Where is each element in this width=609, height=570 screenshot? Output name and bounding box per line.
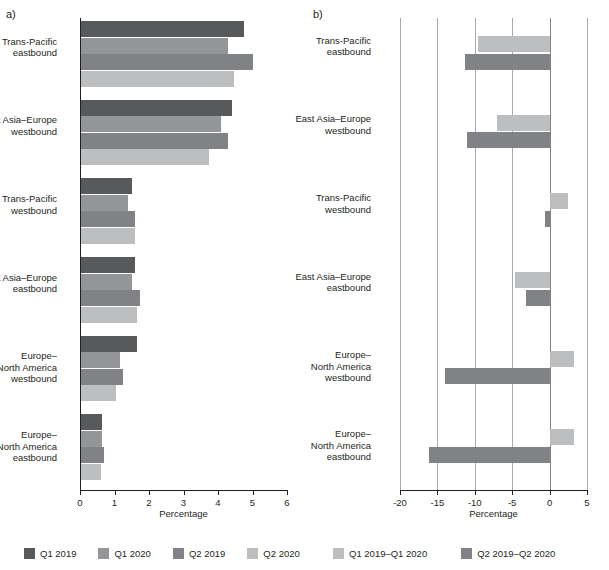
panel-a-category-label: East Asia–Europe westbound [0, 114, 57, 137]
legend-item: Q2 2019–Q2 2020 [461, 548, 555, 559]
panel-b-bar [465, 54, 550, 70]
legend-item: Q2 2020 [247, 548, 299, 559]
panel-a-bar [80, 369, 123, 385]
panel-b-category-label: Trans-Pacific eastbound [241, 35, 371, 58]
legend-swatch [173, 548, 184, 559]
panel-a-tick [115, 491, 116, 495]
panel-a-bar [80, 290, 140, 306]
panel-a-axis-title: Percentage [80, 508, 287, 519]
panel-a-bar [80, 38, 228, 54]
legend-item: Q1 2019 [24, 548, 76, 559]
panel-a-bar [80, 54, 253, 70]
panel-b-bar [515, 272, 549, 288]
panel-b-bar [478, 36, 550, 52]
panel-b-gridline [587, 18, 588, 490]
panel-b-tick-label: -15 [422, 497, 452, 508]
panel-a-bar [80, 431, 102, 447]
panel-a-tick-label: 0 [65, 497, 95, 508]
panel-b-axis-title: Percentage [400, 508, 587, 519]
panel-a-bar [80, 71, 234, 87]
legend-label: Q1 2020 [114, 548, 150, 559]
panel-a-bar [80, 21, 244, 37]
panel-a-bar [80, 211, 135, 227]
panel-a-tick-label: 1 [100, 497, 130, 508]
panel-a-tick-label: 6 [272, 497, 302, 508]
panel-b-tick-label: -10 [460, 497, 490, 508]
panel-b-tick [587, 491, 588, 495]
panel-b-tick-label: -20 [385, 497, 415, 508]
panel-a-tick [149, 491, 150, 495]
panel-b-tick-label: -5 [497, 497, 527, 508]
panel-b-bar [550, 193, 568, 209]
panel-a-bar [80, 228, 135, 244]
panel-b-axis-line [400, 490, 588, 491]
panel-b-bar [526, 290, 550, 306]
panel-a-bar [80, 116, 221, 132]
legend-swatch [98, 548, 109, 559]
panel-a-bar [80, 195, 128, 211]
panel-a-tick [80, 491, 81, 495]
panel-a-legend: Q1 2019Q1 2020Q2 2019Q2 2020 [24, 548, 322, 559]
panel-b-bar [545, 211, 549, 227]
panel-a-tick [184, 491, 185, 495]
panel-b-bar [497, 115, 549, 131]
panel-a-tick-label: 3 [169, 497, 199, 508]
panel-b-gridline [437, 18, 438, 490]
legend-swatch [461, 548, 472, 559]
panel-b-legend: Q1 2019–Q1 2020Q2 2019–Q2 2020 [333, 548, 589, 559]
panel-b-zero-line [550, 18, 551, 490]
panel-b-plot-area: Trans-Pacific eastboundEast Asia–Europe … [400, 18, 587, 490]
legend-item: Q1 2019–Q1 2020 [333, 548, 427, 559]
panel-b-tick-label: 5 [572, 497, 602, 508]
panel-a-bar [80, 178, 132, 194]
panel-b: b) Trans-Pacific eastboundEast Asia–Euro… [305, 0, 609, 570]
panel-b-tick [475, 491, 476, 495]
legend-swatch [24, 548, 35, 559]
legend-label: Q2 2019 [189, 548, 225, 559]
panel-b-tick [512, 491, 513, 495]
panel-a-bar [80, 414, 102, 430]
legend-swatch [247, 548, 258, 559]
panel-a-y-axis-line [80, 18, 81, 490]
panel-b-letter: b) [313, 8, 323, 20]
panel-b-gridline [475, 18, 476, 490]
panel-a-category-label: Trans-Pacific westbound [0, 193, 57, 216]
panel-b-bar [550, 429, 575, 445]
panel-a-tick [218, 491, 219, 495]
legend-label: Q2 2020 [263, 548, 299, 559]
panel-b-tick [437, 491, 438, 495]
panel-a-letter: a) [6, 8, 16, 20]
panel-b-gridline [512, 18, 513, 490]
panel-a-bar [80, 307, 137, 323]
panel-a-bar [80, 385, 116, 401]
panel-a-bar [80, 464, 101, 480]
panel-a-bar [80, 336, 137, 352]
legend-item: Q1 2020 [98, 548, 150, 559]
panel-a-tick [253, 491, 254, 495]
panel-a-bar [80, 447, 104, 463]
panel-a-bar [80, 274, 132, 290]
panel-b-category-label: East Asia–Europe westbound [241, 113, 371, 136]
legend-label: Q1 2019 [40, 548, 76, 559]
panel-a-bar [80, 100, 232, 116]
panel-b-bar [550, 351, 575, 367]
panel-a-tick-label: 4 [203, 497, 233, 508]
panel-a-tick-label: 2 [134, 497, 164, 508]
panel-b-tick [550, 491, 551, 495]
panel-a-category-label: Europe– North America eastbound [0, 429, 57, 464]
legend-swatch [333, 548, 344, 559]
legend-label: Q1 2019–Q1 2020 [349, 548, 427, 559]
panel-b-category-label: Trans-Pacific westbound [241, 192, 371, 215]
panel-a-bar [80, 257, 135, 273]
panel-b-category-label: East Asia–Europe eastbound [241, 271, 371, 294]
panel-a-bar [80, 352, 120, 368]
panel-a-bar [80, 133, 228, 149]
panel-a-category-label: East Asia–Europe eastbound [0, 272, 57, 295]
panel-b-tick-label: 0 [535, 497, 565, 508]
panel-a-category-label: Trans-Pacific eastbound [0, 36, 57, 59]
panel-a-tick [287, 491, 288, 495]
panel-b-category-label: Europe– North America westbound [241, 349, 371, 384]
panel-b-tick [400, 491, 401, 495]
panel-a-bar [80, 149, 209, 165]
panel-b-bar [467, 132, 549, 148]
